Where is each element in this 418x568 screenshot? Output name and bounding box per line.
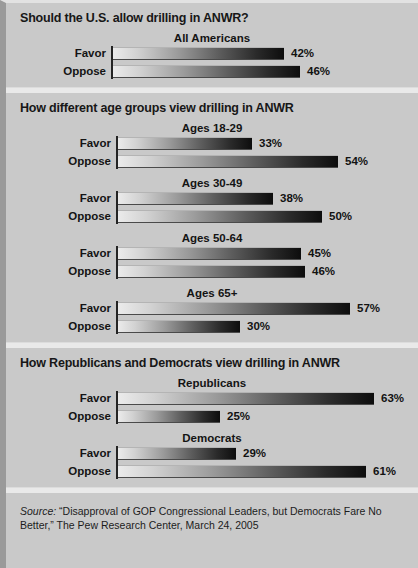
- chart-row: Favor33%: [6, 136, 418, 151]
- chart-row: Oppose25%: [6, 409, 418, 424]
- group-spacer: [6, 279, 418, 285]
- chart-group: Ages 18-29Favor33%Oppose54%: [6, 122, 418, 175]
- bar-wrapper: 38%: [118, 192, 303, 205]
- chart-group: All AmericansFavor42%Oppose46%: [6, 32, 418, 85]
- source-text: “Disapproval of GOP Congressional Leader…: [20, 505, 382, 531]
- group-title: Ages 50-64: [6, 232, 418, 246]
- bar: [113, 65, 300, 78]
- sections-container: Should the U.S. allow drilling in ANWR?A…: [6, 3, 418, 485]
- chart-group: Ages 30-49Favor38%Oppose50%: [6, 177, 418, 230]
- bar-value-label: 33%: [259, 137, 282, 150]
- bar-value-label: 54%: [345, 155, 368, 168]
- section-title: How different age groups view drilling i…: [6, 93, 418, 122]
- source-note: Source: “Disapproval of GOP Congressiona…: [6, 493, 418, 542]
- chart-rows: Favor63%Oppose25%: [6, 391, 418, 424]
- group-title: Democrats: [6, 432, 418, 446]
- bar-wrapper: 42%: [113, 47, 314, 60]
- row-label-favor: Favor: [36, 46, 106, 61]
- row-label-oppose: Oppose: [36, 64, 106, 79]
- row-label-oppose: Oppose: [41, 319, 111, 334]
- bar: [118, 447, 236, 460]
- group-spacer: [6, 79, 418, 85]
- bar-wrapper: 54%: [118, 155, 368, 168]
- row-label-oppose: Oppose: [41, 264, 111, 279]
- chart-row: Oppose30%: [6, 319, 418, 334]
- row-label-favor: Favor: [41, 446, 111, 461]
- group-spacer: [6, 169, 418, 175]
- group-spacer: [6, 424, 418, 430]
- group-title: Republicans: [6, 377, 418, 391]
- chart-row: Favor57%: [6, 301, 418, 316]
- bar-wrapper: 30%: [118, 320, 270, 333]
- chart-group: DemocratsFavor29%Oppose61%: [6, 432, 418, 485]
- chart-row: Favor29%: [6, 446, 418, 461]
- row-label-favor: Favor: [41, 301, 111, 316]
- bar-value-label: 45%: [308, 247, 331, 260]
- bar: [118, 192, 273, 205]
- section-age-groups: How different age groups view drilling i…: [6, 93, 418, 340]
- bar: [118, 265, 305, 278]
- row-label-oppose: Oppose: [41, 209, 111, 224]
- bar: [118, 247, 301, 260]
- bar: [118, 302, 350, 315]
- bar-wrapper: 46%: [113, 65, 330, 78]
- bar: [118, 410, 220, 423]
- bar-wrapper: 45%: [118, 247, 331, 260]
- group-title: Ages 65+: [6, 287, 418, 301]
- chart-row: Oppose54%: [6, 154, 418, 169]
- section-all-americans: Should the U.S. allow drilling in ANWR?A…: [6, 3, 418, 85]
- chart-row: Oppose50%: [6, 209, 418, 224]
- group-title: Ages 18-29: [6, 122, 418, 136]
- chart-row: Favor63%: [6, 391, 418, 406]
- bar-value-label: 46%: [312, 265, 335, 278]
- bar-wrapper: 46%: [118, 265, 335, 278]
- chart-rows: Favor57%Oppose30%: [6, 301, 418, 334]
- source-label: Source:: [20, 505, 56, 517]
- row-label-favor: Favor: [41, 136, 111, 151]
- section-title: How Republicans and Democrats view drill…: [6, 348, 418, 377]
- bar-value-label: 61%: [373, 465, 396, 478]
- chart-row: Oppose46%: [6, 264, 418, 279]
- group-title: Ages 30-49: [6, 177, 418, 191]
- bar: [113, 47, 284, 60]
- bar-value-label: 50%: [329, 210, 352, 223]
- bar: [118, 210, 322, 223]
- bar-wrapper: 50%: [118, 210, 352, 223]
- row-label-favor: Favor: [41, 246, 111, 261]
- row-label-oppose: Oppose: [41, 464, 111, 479]
- bar-value-label: 25%: [227, 410, 250, 423]
- bar: [118, 320, 240, 333]
- bar-wrapper: 29%: [118, 447, 266, 460]
- bar: [118, 137, 252, 150]
- infographic-root: Should the U.S. allow drilling in ANWR?A…: [0, 0, 418, 568]
- bar-wrapper: 57%: [118, 302, 380, 315]
- bar: [118, 465, 366, 478]
- group-spacer: [6, 224, 418, 230]
- chart-row: Oppose61%: [6, 464, 418, 479]
- bar: [118, 392, 374, 405]
- bar-value-label: 30%: [247, 320, 270, 333]
- bar-value-label: 29%: [243, 447, 266, 460]
- row-label-favor: Favor: [41, 391, 111, 406]
- chart-row: Oppose46%: [6, 64, 418, 79]
- bar: [118, 155, 338, 168]
- chart-group: Ages 50-64Favor45%Oppose46%: [6, 232, 418, 285]
- section-title: Should the U.S. allow drilling in ANWR?: [6, 3, 418, 32]
- chart-group: Ages 65+Favor57%Oppose30%: [6, 287, 418, 340]
- row-label-oppose: Oppose: [41, 409, 111, 424]
- chart-rows: Favor45%Oppose46%: [6, 246, 418, 279]
- bar-wrapper: 33%: [118, 137, 282, 150]
- bar-value-label: 46%: [307, 65, 330, 78]
- chart-group: RepublicansFavor63%Oppose25%: [6, 377, 418, 430]
- chart-rows: Favor33%Oppose54%: [6, 136, 418, 169]
- group-spacer: [6, 334, 418, 340]
- chart-rows: Favor29%Oppose61%: [6, 446, 418, 479]
- bar-value-label: 57%: [357, 302, 380, 315]
- row-label-oppose: Oppose: [41, 154, 111, 169]
- chart-row: Favor38%: [6, 191, 418, 206]
- bar-wrapper: 61%: [118, 465, 396, 478]
- bar-wrapper: 63%: [118, 392, 404, 405]
- group-spacer: [6, 479, 418, 485]
- section-party: How Republicans and Democrats view drill…: [6, 348, 418, 485]
- bar-value-label: 42%: [291, 47, 314, 60]
